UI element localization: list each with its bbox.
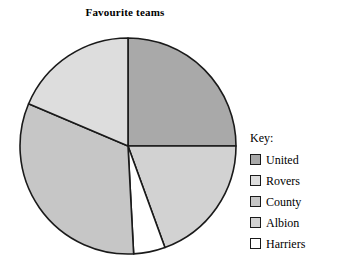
legend-item-rovers: Rovers <box>250 170 340 191</box>
legend-item-harriers: Harriers <box>250 233 340 254</box>
legend-label-county: County <box>266 195 301 209</box>
legend-item-county: County <box>250 191 340 212</box>
legend-label-albion: Albion <box>266 216 299 230</box>
pie-chart-figure: Favourite teams Key: UnitedRoversCountyA… <box>0 0 340 280</box>
legend-items: UnitedRoversCountyAlbionHarriers <box>250 149 340 254</box>
legend-swatch-rovers <box>250 175 261 186</box>
legend: Key: UnitedRoversCountyAlbionHarriers <box>250 131 340 254</box>
legend-swatch-united <box>250 154 261 165</box>
legend-swatch-albion <box>250 217 261 228</box>
legend-label-harriers: Harriers <box>266 237 305 251</box>
legend-title: Key: <box>250 131 340 146</box>
legend-item-albion: Albion <box>250 212 340 233</box>
pie-slice-group <box>20 38 236 254</box>
legend-label-united: United <box>266 153 299 167</box>
legend-swatch-county <box>250 196 261 207</box>
legend-swatch-harriers <box>250 238 261 249</box>
pie-chart-svg <box>18 36 238 256</box>
legend-item-united: United <box>250 149 340 170</box>
pie-chart-plot-area <box>18 36 238 256</box>
pie-slice-united <box>128 38 236 146</box>
chart-title: Favourite teams <box>0 6 250 19</box>
legend-label-rovers: Rovers <box>266 174 300 188</box>
